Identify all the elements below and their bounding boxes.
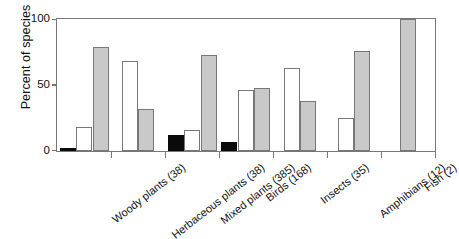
bar-gray	[138, 109, 154, 151]
y-tick-label: 100	[20, 12, 50, 24]
bar-group	[221, 19, 270, 150]
bar-white	[284, 68, 300, 151]
bar-group	[284, 19, 317, 150]
bar-gray	[300, 101, 316, 151]
bar-gray	[254, 88, 270, 151]
bar-gray	[201, 55, 217, 151]
x-tick-mark	[111, 152, 112, 158]
x-tick-mark	[273, 152, 274, 158]
bar-group	[60, 19, 109, 150]
bar-group	[400, 19, 416, 150]
y-tick-label: 50	[20, 78, 50, 90]
bar-white	[122, 61, 138, 150]
bar-white	[338, 118, 354, 151]
bar-gray	[93, 47, 109, 151]
bar-black	[60, 148, 76, 151]
bar-black	[168, 135, 184, 151]
bar-white	[184, 130, 200, 151]
x-tick-mark	[435, 152, 436, 158]
x-tick-mark	[219, 152, 220, 158]
y-tick-label: 0	[20, 144, 50, 156]
x-tick-mark	[381, 152, 382, 158]
bar-white	[76, 127, 92, 151]
bar-group	[122, 19, 155, 150]
bar-group	[338, 19, 371, 150]
x-tick-mark	[327, 152, 328, 158]
bar-gray	[354, 51, 370, 151]
bar-black	[221, 142, 237, 151]
bar-gray	[400, 19, 416, 150]
bar-group	[168, 19, 217, 150]
x-tick-mark	[165, 152, 166, 158]
bar-white	[238, 90, 254, 150]
bars-area	[57, 19, 434, 150]
